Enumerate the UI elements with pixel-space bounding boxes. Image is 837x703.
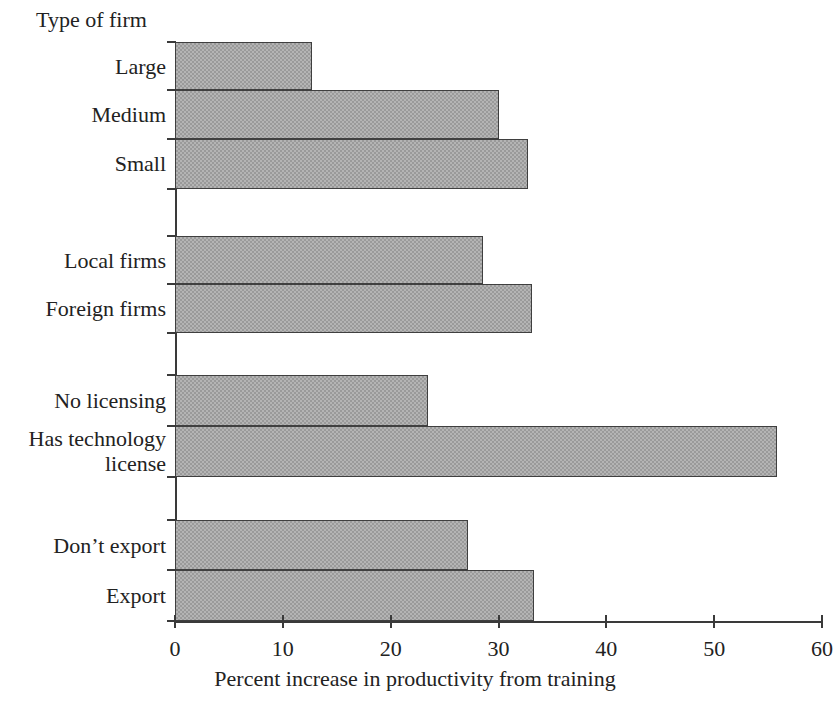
y-axis-tick bbox=[167, 188, 176, 190]
bar bbox=[175, 520, 468, 570]
y-axis-tick bbox=[167, 41, 176, 43]
y-axis-tick bbox=[167, 569, 176, 571]
bar bbox=[175, 90, 499, 139]
category-label: Has technology license bbox=[29, 426, 166, 476]
y-axis-tick bbox=[167, 476, 176, 478]
bar bbox=[175, 139, 528, 189]
category-label: Large bbox=[115, 54, 166, 79]
x-axis-tick-label: 50 bbox=[684, 636, 744, 662]
x-axis-tick-label: 40 bbox=[576, 636, 636, 662]
category-label: Local firms bbox=[64, 248, 166, 273]
bar bbox=[175, 284, 532, 333]
y-axis-tick bbox=[167, 374, 176, 376]
category-label: Foreign firms bbox=[46, 296, 166, 321]
category-label: No licensing bbox=[54, 388, 166, 413]
x-axis-tick bbox=[713, 615, 715, 628]
category-label: Don’t export bbox=[53, 533, 166, 558]
y-axis-tick bbox=[167, 332, 176, 334]
y-axis-tick bbox=[167, 138, 176, 140]
y-axis-tick bbox=[167, 519, 176, 521]
x-axis-tick bbox=[282, 615, 284, 628]
x-axis-tick bbox=[821, 615, 823, 628]
x-axis-title: Percent increase in productivity from tr… bbox=[0, 666, 830, 692]
x-axis-tick-label: 20 bbox=[361, 636, 421, 662]
category-label: Medium bbox=[91, 102, 166, 127]
bar bbox=[175, 236, 483, 284]
y-axis-tick bbox=[167, 425, 176, 427]
x-axis-tick bbox=[174, 615, 176, 628]
bar bbox=[175, 375, 428, 426]
x-axis-tick-label: 60 bbox=[792, 636, 837, 662]
x-axis-tick-label: 0 bbox=[145, 636, 205, 662]
x-axis-tick bbox=[498, 615, 500, 628]
bar bbox=[175, 426, 777, 477]
category-label: Export bbox=[106, 583, 166, 608]
y-axis-tick bbox=[167, 283, 176, 285]
category-label: Small bbox=[115, 151, 166, 176]
bar bbox=[175, 570, 534, 621]
x-axis-tick bbox=[390, 615, 392, 628]
x-axis-tick-label: 10 bbox=[253, 636, 313, 662]
y-axis-tick bbox=[167, 235, 176, 237]
x-axis-tick-label: 30 bbox=[469, 636, 529, 662]
x-axis-tick bbox=[605, 615, 607, 628]
y-axis-tick bbox=[167, 89, 176, 91]
bar bbox=[175, 42, 312, 90]
